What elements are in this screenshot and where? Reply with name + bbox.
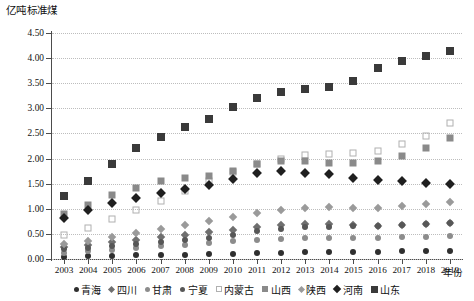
data-point [229,103,237,111]
gridline [52,108,462,109]
gridline [52,133,462,134]
data-point [349,204,357,212]
data-point [158,239,164,245]
legend-marker-icon [145,287,150,292]
x-axis-tick-mark [161,259,162,264]
data-point [375,223,381,229]
data-point [253,209,261,217]
legend-marker-icon [298,285,305,292]
x-axis-tick-mark [353,259,354,264]
legend-marker-icon [262,286,268,292]
data-point [399,234,405,240]
y-axis-tick-label: 1.00 [10,204,44,214]
x-axis-tick-mark [64,259,65,264]
legend-item-内蒙古[interactable]: 内蒙古 [216,282,255,297]
data-point [180,221,188,229]
legend-marker-icon [371,286,378,293]
x-axis-tick-mark [185,259,186,264]
x-axis-tick-mark [402,259,403,264]
legend-item-山东[interactable]: 山东 [371,282,401,297]
y-axis-tick-label: 4.50 [10,28,44,38]
y-axis-tick-mark [46,209,52,210]
legend-marker-icon [108,285,115,292]
data-point [326,150,333,157]
legend-item-宁夏[interactable]: 宁夏 [180,282,208,297]
y-axis-tick-label: 4.00 [10,53,44,63]
data-point [157,178,164,185]
x-axis-tick-mark [88,259,89,264]
legend-label: 山东 [380,282,400,297]
legend-label: 四川 [117,282,137,297]
data-point [254,250,260,256]
data-point [85,245,91,251]
data-point [206,235,212,241]
legend-item-甘肃[interactable]: 甘肃 [145,282,173,297]
data-point [325,83,333,91]
data-point [301,204,309,212]
legend-marker-icon [333,285,341,293]
data-point [278,236,284,242]
data-point [446,120,453,127]
data-point [446,47,454,55]
data-point [277,206,285,214]
data-point [447,233,453,239]
data-point [109,191,116,198]
chart-legend: 青海四川甘肃宁夏内蒙古山西陕西河南山东 [0,279,474,299]
y-axis-tick-mark [46,234,52,235]
legend-item-河南[interactable]: 河南 [334,282,363,297]
data-point [157,133,165,141]
data-point [131,193,141,203]
data-point [349,77,357,85]
x-axis-tick-mark [209,259,210,264]
data-point [276,166,286,176]
legend-label: 内蒙古 [224,282,254,297]
legend-item-青海[interactable]: 青海 [74,282,102,297]
chart-root: 亿吨标准煤 0.000.501.001.502.002.503.003.504.… [0,0,474,301]
data-point [324,169,334,179]
data-point [84,177,92,185]
data-point [350,223,356,229]
data-point [205,172,212,179]
y-axis-tick-mark [46,159,52,160]
data-point [278,158,285,165]
y-axis-tick-label: 1.50 [10,179,44,189]
gridline [52,83,462,84]
data-point [399,248,405,254]
y-axis-tick-mark [46,259,52,260]
data-point [205,217,213,225]
data-point [422,200,430,208]
data-point [422,132,429,139]
data-point [156,225,164,233]
legend-item-山西[interactable]: 山西 [262,282,291,297]
y-axis-tick-mark [46,58,52,59]
data-point [277,88,285,96]
data-point [326,235,332,241]
data-point [230,232,236,238]
legend-label: 河南 [343,282,363,297]
gridline [52,33,462,34]
data-point [374,158,381,165]
data-point [374,64,382,72]
data-point [181,174,188,181]
data-point [181,123,189,131]
y-axis-tick-label: 2.50 [10,128,44,138]
data-point [133,241,139,247]
data-point [350,235,356,241]
data-point [133,206,140,213]
data-point [158,252,164,258]
x-axis-tick-mark [281,259,282,264]
data-point [421,178,431,188]
x-axis-title: 年份 [443,265,463,279]
data-point [302,224,308,230]
data-point [109,243,115,249]
legend-label: 甘肃 [152,282,172,297]
data-point [278,226,284,232]
data-point [278,250,284,256]
data-point [133,184,140,191]
data-point [350,149,357,156]
data-point [447,248,453,254]
data-point [423,221,429,227]
data-point [398,153,405,160]
legend-item-陕西[interactable]: 陕西 [299,282,327,297]
legend-item-四川[interactable]: 四川 [109,282,137,297]
